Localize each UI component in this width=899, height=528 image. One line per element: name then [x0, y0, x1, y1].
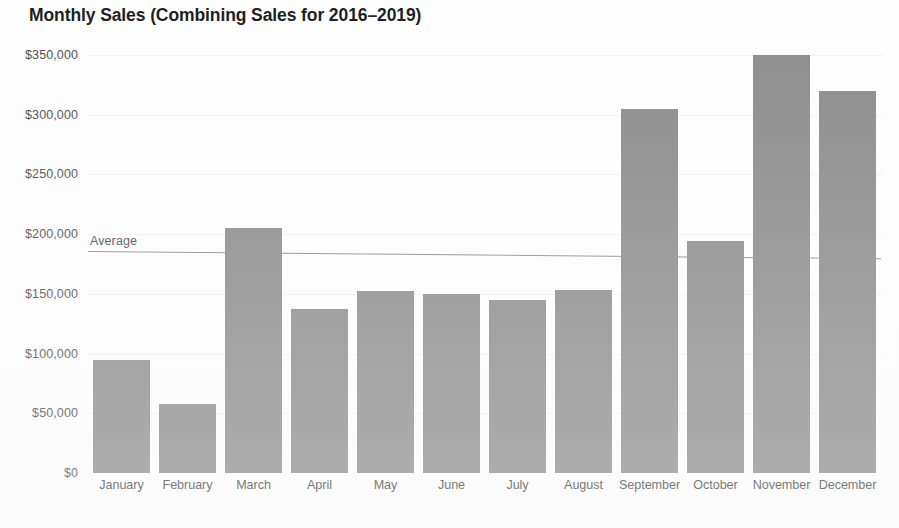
y-tick-label: $200,000: [25, 227, 78, 241]
y-tick-label: $300,000: [25, 108, 78, 122]
bar-chart: Monthly Sales (Combining Sales for 2016–…: [0, 0, 899, 528]
x-tick-label: June: [438, 478, 465, 492]
x-tick-label: August: [564, 478, 603, 492]
bar[interactable]: [93, 360, 150, 473]
bar[interactable]: [291, 309, 348, 473]
x-tick-label: October: [693, 478, 737, 492]
bar[interactable]: [819, 91, 876, 473]
x-tick-label: July: [506, 478, 528, 492]
x-tick-label: March: [236, 478, 271, 492]
y-axis: $0$50,000$100,000$150,000$200,000$250,00…: [0, 55, 86, 473]
bar[interactable]: [225, 228, 282, 473]
bar[interactable]: [753, 55, 810, 473]
bar[interactable]: [423, 294, 480, 473]
bar[interactable]: [621, 109, 678, 473]
bar[interactable]: [687, 241, 744, 473]
x-tick-label: September: [619, 478, 680, 492]
average-reference-label: Average: [90, 234, 137, 248]
y-tick-label: $0: [64, 466, 78, 480]
x-axis: JanuaryFebruaryMarchAprilMayJuneJulyAugu…: [88, 478, 888, 508]
y-tick-label: $150,000: [25, 287, 78, 301]
y-tick-label: $50,000: [32, 406, 78, 420]
x-tick-label: February: [163, 478, 213, 492]
x-tick-label: December: [819, 478, 877, 492]
x-tick-label: January: [99, 478, 143, 492]
bar[interactable]: [489, 300, 546, 473]
bar[interactable]: [159, 404, 216, 473]
y-tick-label: $100,000: [25, 347, 78, 361]
y-tick-label: $250,000: [25, 167, 78, 181]
gridline: [88, 473, 883, 474]
x-tick-label: May: [374, 478, 398, 492]
plot-area: Average: [88, 55, 888, 473]
chart-title: Monthly Sales (Combining Sales for 2016–…: [29, 5, 421, 26]
x-tick-label: November: [753, 478, 811, 492]
bar[interactable]: [357, 291, 414, 473]
y-tick-label: $350,000: [25, 48, 78, 62]
x-tick-label: April: [307, 478, 332, 492]
bar[interactable]: [555, 290, 612, 473]
